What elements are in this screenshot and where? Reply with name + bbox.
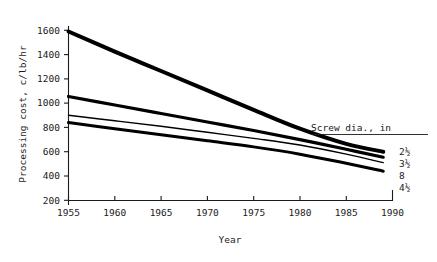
y-tick-label-1200: 1200 xyxy=(37,73,60,84)
y-tick-label-600: 600 xyxy=(43,146,60,157)
legend-label-0: 2½ xyxy=(399,146,411,157)
y-axis-tick-labels: 1600 1400 1200 1000 800 600 400 200 xyxy=(37,25,60,206)
x-tick-label-1965: 1965 xyxy=(150,207,173,218)
x-tick-label-1975: 1975 xyxy=(242,207,265,218)
y-tick-label-1400: 1400 xyxy=(37,49,60,60)
x-tick-label-1960: 1960 xyxy=(103,207,126,218)
x-tick-label-1955: 1955 xyxy=(57,207,80,218)
series-line-0 xyxy=(69,32,384,152)
legend-label-1: 3½ xyxy=(399,158,411,169)
chart-canvas: 1600 1400 1200 1000 800 600 400 200 Proc… xyxy=(0,0,437,262)
y-tick-label-1600: 1600 xyxy=(37,25,60,36)
legend-label-2: 8 xyxy=(399,170,405,181)
x-axis: 1955 1960 1965 1970 1975 1980 1985 1990 … xyxy=(57,190,404,245)
legend: Screw dia., in 2½ 3½ 8 4½ xyxy=(311,122,428,193)
y-axis-title: Processing cost, c/lb/hr xyxy=(17,45,28,183)
y-tick-label-1000: 1000 xyxy=(37,97,60,108)
x-tick-label-1970: 1970 xyxy=(196,207,219,218)
legend-label-3: 4½ xyxy=(399,182,411,193)
y-tick-label-800: 800 xyxy=(43,122,60,133)
x-tick-label-1980: 1980 xyxy=(289,207,312,218)
x-axis-ticks xyxy=(69,190,393,205)
x-axis-title: Year xyxy=(219,234,242,245)
y-tick-label-200: 200 xyxy=(43,195,60,206)
x-tick-label-1990: 1990 xyxy=(381,207,404,218)
data-series-group xyxy=(69,32,384,172)
legend-title: Screw dia., in xyxy=(311,122,391,133)
y-tick-label-400: 400 xyxy=(43,170,60,181)
y-axis: 1600 1400 1200 1000 800 600 400 200 Proc… xyxy=(17,25,69,206)
x-axis-tick-labels: 1955 1960 1965 1970 1975 1980 1985 1990 xyxy=(57,207,404,218)
chart-figure: 1600 1400 1200 1000 800 600 400 200 Proc… xyxy=(0,0,437,262)
x-tick-label-1985: 1985 xyxy=(335,207,358,218)
